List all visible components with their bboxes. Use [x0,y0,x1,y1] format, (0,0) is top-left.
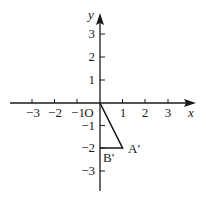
y-tick-label: −2 [81,140,95,155]
x-tick-label: 1 [120,105,127,120]
y-tick-label: −1 [81,118,95,133]
vertex-label-a: A′ [128,141,140,156]
vertex-label-b: B′ [103,150,115,165]
coordinate-diagram: −3 −2 −1 1 2 3 O 3 2 1 −1 −2 −3 x y A′ B… [0,0,206,197]
y-tick-label: 2 [89,49,96,64]
y-axis-label: y [86,7,94,22]
y-tick-label: 3 [89,26,96,41]
x-tick-label: 3 [165,105,172,120]
x-tick-label: −2 [48,105,62,120]
y-tick-label: −3 [81,163,95,178]
x-axis-label: x [187,105,194,120]
y-tick-label: 1 [89,72,96,87]
x-tick-label: 2 [142,105,149,120]
x-tick-label: −3 [26,105,40,120]
